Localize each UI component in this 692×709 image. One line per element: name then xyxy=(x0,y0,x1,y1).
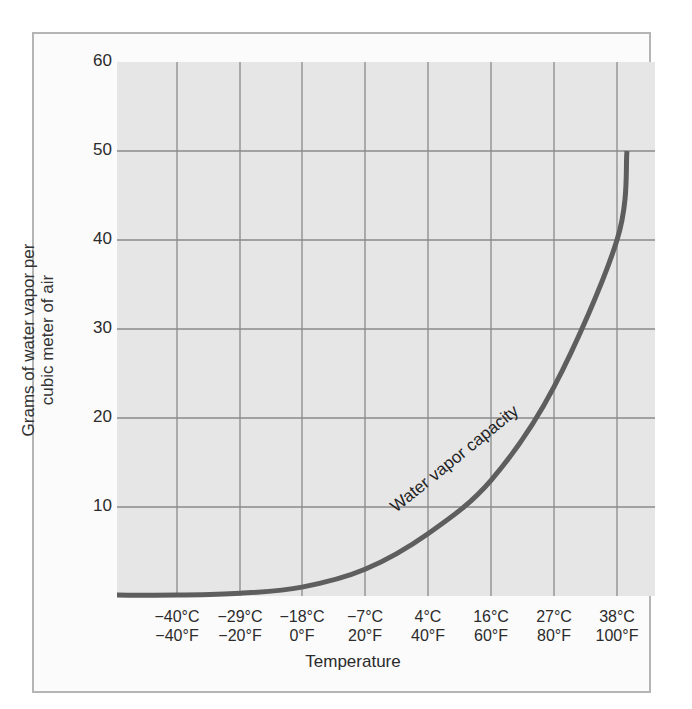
y-axis-label-line2: cubic meter of air xyxy=(38,190,57,490)
y-tick-label: 10 xyxy=(72,496,112,516)
y-tick-label: 50 xyxy=(72,140,112,160)
y-tick-label: 30 xyxy=(72,318,112,338)
y-tick-label: 20 xyxy=(72,407,112,427)
x-axis-label: Temperature xyxy=(253,652,453,672)
y-tick-label: 40 xyxy=(72,229,112,249)
chart-plot: Water vapor capacity xyxy=(0,0,692,709)
x-tick-label: 38°C100°F xyxy=(577,607,657,645)
y-axis-label-line1: Grams of water vapor per xyxy=(19,190,38,490)
y-tick-label: 60 xyxy=(72,51,112,71)
y-axis-label: Grams of water vapor per cubic meter of … xyxy=(19,190,57,490)
